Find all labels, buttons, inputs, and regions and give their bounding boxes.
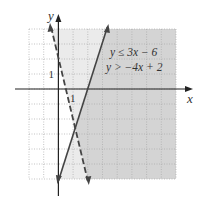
y-axis-label: y — [46, 8, 54, 23]
solid-line-arrow-top-icon — [104, 24, 110, 33]
y-tick-label: 1 — [48, 68, 54, 80]
legend-entry-dashed: y > −4x + 2 — [105, 61, 163, 74]
dashed-line-arrow-top-icon — [48, 23, 54, 32]
inequality-graph: x y 1 1 y ≤ 3x − 6 y > −4x + 2 — [0, 0, 201, 199]
y-axis-arrow-icon — [55, 14, 61, 22]
x-tick-label: 1 — [70, 92, 76, 104]
x-axis-label: x — [186, 91, 193, 106]
dashed-line-arrow-bottom-icon — [85, 176, 91, 185]
legend-entry-solid: y ≤ 3x − 6 — [109, 46, 158, 59]
